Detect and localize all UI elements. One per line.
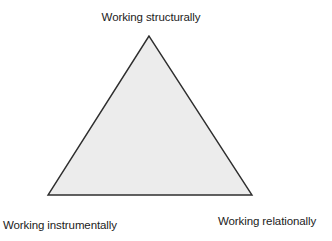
vertex-label-bottom-left: Working instrumentally <box>3 219 117 231</box>
vertex-label-top: Working structurally <box>0 11 302 23</box>
vertex-label-bottom-right: Working relationally <box>218 215 316 227</box>
triangle-diagram <box>0 0 332 241</box>
triangle-shape <box>48 36 252 195</box>
